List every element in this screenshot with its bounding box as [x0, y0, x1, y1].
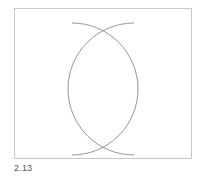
vesica-diagram [0, 0, 200, 180]
arc-left [72, 23, 138, 155]
figure-caption: 2.13 [14, 163, 32, 173]
arc-right [68, 23, 134, 155]
